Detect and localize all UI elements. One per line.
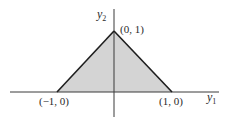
vertical-axis-label: y2 (96, 7, 106, 23)
vertex-label-left: (−1, 0) (39, 95, 69, 108)
vertex-label-top: (0, 1) (120, 23, 144, 36)
triangle-diagram: y2 y1 (0, 1) (−1, 0) (1, 0) (0, 0, 237, 120)
vertex-label-right: (1, 0) (159, 95, 183, 108)
